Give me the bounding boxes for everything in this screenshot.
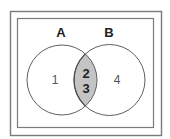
set-a-label: A (56, 25, 66, 40)
region-a-only-label: 1 (52, 73, 59, 87)
intersection-label-top: 2 (82, 66, 89, 81)
intersection-label-bottom: 3 (82, 81, 89, 96)
venn-diagram: A B 1 4 2 3 (0, 0, 170, 139)
set-b-label: B (104, 25, 113, 40)
region-b-only-label: 4 (114, 73, 121, 87)
